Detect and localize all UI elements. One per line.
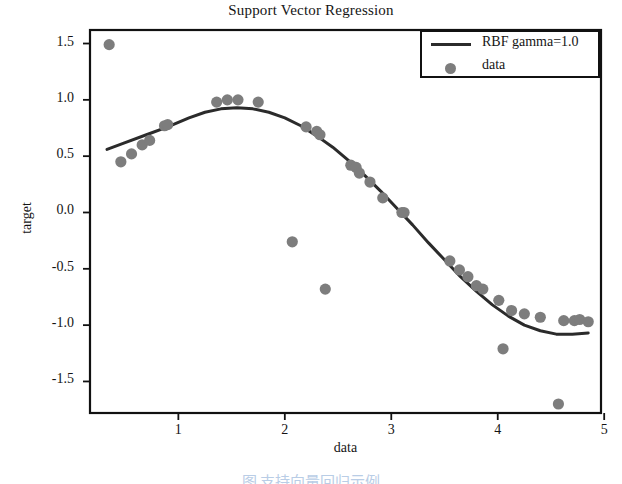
figure-container: Support Vector Regression target data 1.… [0, 0, 622, 484]
data-point [398, 207, 409, 218]
data-point [211, 96, 222, 107]
data-point [222, 94, 233, 105]
legend-dot-swatch [445, 63, 456, 74]
data-point [506, 305, 517, 316]
y-tick-label: 0.5 [18, 146, 74, 162]
data-point [287, 236, 298, 247]
data-point [497, 343, 508, 354]
y-tick-label: -1.5 [18, 371, 74, 387]
data-point [301, 121, 312, 132]
data-point [519, 308, 530, 319]
y-tick-label: 1.0 [18, 90, 74, 106]
data-point [354, 167, 365, 178]
data-point [553, 398, 564, 409]
data-point [493, 295, 504, 306]
data-point [126, 148, 137, 159]
x-tick-label: 2 [265, 422, 305, 438]
data-point [535, 312, 546, 323]
legend-entry-data: data [422, 55, 598, 79]
data-point [462, 271, 473, 282]
data-point [377, 192, 388, 203]
y-tick-label: 1.5 [18, 34, 74, 50]
legend-line-swatch [431, 43, 471, 46]
legend-label-data: data [482, 57, 505, 73]
data-point [314, 129, 325, 140]
data-point [144, 135, 155, 146]
data-point [364, 176, 375, 187]
data-point [253, 96, 264, 107]
data-point [558, 315, 569, 326]
data-point [162, 119, 173, 130]
legend[interactable]: RBF gamma=1.0 data [420, 30, 600, 78]
y-tick-label: -1.0 [18, 315, 74, 331]
figure-caption: 图 支持向量回归示例 [0, 470, 622, 484]
legend-entry-model: RBF gamma=1.0 [422, 32, 598, 56]
data-point [444, 255, 455, 266]
data-point [115, 156, 126, 167]
y-tick-label: -0.5 [18, 259, 74, 275]
data-point [104, 39, 115, 50]
data-point [583, 316, 594, 327]
x-tick-label: 1 [158, 422, 198, 438]
x-tick-label: 5 [584, 422, 622, 438]
legend-label-model: RBF gamma=1.0 [482, 34, 579, 50]
plot-frame [90, 30, 601, 413]
y-tick-label: 0.0 [18, 202, 74, 218]
x-axis-label: data [90, 440, 601, 456]
data-point [320, 283, 331, 294]
data-point [232, 94, 243, 105]
data-point [477, 283, 488, 294]
x-tick-label: 4 [478, 422, 518, 438]
x-tick-label: 3 [371, 422, 411, 438]
